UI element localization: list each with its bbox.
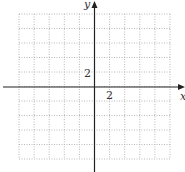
- y-axis-arrow-icon: [92, 1, 98, 8]
- x-tick-label: 2: [106, 89, 113, 102]
- coordinate-plane: x y 2 2: [0, 0, 185, 172]
- y-axis-label: y: [83, 0, 91, 11]
- x-axis-label: x: [180, 90, 185, 103]
- y-tick-label: 2: [84, 67, 91, 80]
